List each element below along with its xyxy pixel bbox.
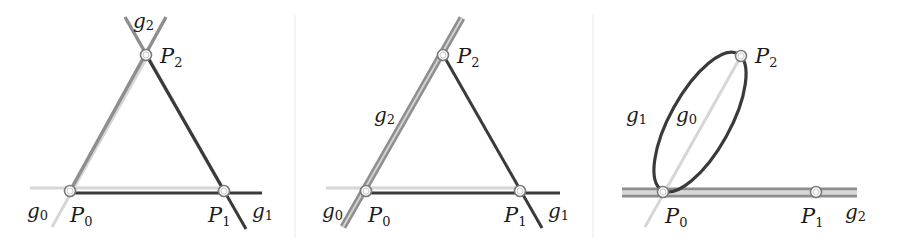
point-p0 [361,186,372,197]
panel-2: P2 g2 g0 P0 P1 g1 [322,18,569,229]
point-p1 [811,187,822,198]
label-g1: g1 [252,199,273,223]
point-p1 [515,186,526,197]
label-p2: P2 [754,44,777,70]
conic-g1 [636,39,764,205]
label-p2: P2 [456,44,479,70]
point-p0 [65,186,76,197]
line-g2-left [70,17,166,191]
line-g0-slanted [52,59,146,227]
point-p2 [141,50,152,61]
label-p1: P1 [503,203,526,229]
line-g1-slanted [445,58,542,228]
label-g2: g2 [133,9,154,33]
label-p1: P1 [800,204,823,230]
point-p1 [219,186,230,197]
diagram-canvas: g2 P2 g0 P0 P1 g1 P2 g2 g0 P0 P1 [0,0,897,249]
panel-3: P2 g1 g0 P0 P1 g2 [622,39,866,230]
label-p0: P0 [367,203,390,229]
point-p2 [736,51,747,62]
panel-1: g2 P2 g0 P0 P1 g1 [27,9,273,229]
label-g0: g0 [322,199,343,223]
line-g1-slanted [148,58,246,229]
label-g1: g1 [548,199,569,223]
label-g2: g2 [845,200,866,224]
label-g1: g1 [626,103,647,127]
label-g0: g0 [27,199,48,223]
label-p0: P0 [69,203,92,229]
label-g0: g0 [676,103,697,127]
point-p2 [438,50,449,61]
label-g2: g2 [374,103,395,127]
label-p2: P2 [159,44,182,70]
label-p1: P1 [207,203,230,229]
point-p0 [658,187,669,198]
label-p0: P0 [664,204,687,230]
